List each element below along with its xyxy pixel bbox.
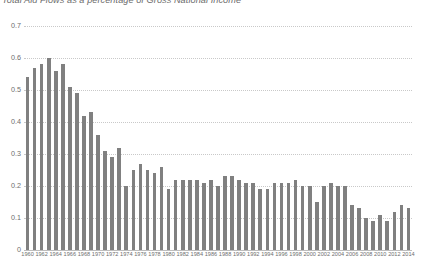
bar: [132, 170, 136, 250]
bar: [47, 58, 51, 250]
bar: [195, 180, 199, 250]
bar: [343, 186, 347, 250]
bar: [251, 183, 255, 250]
bar: [364, 218, 368, 250]
bar: [139, 164, 143, 250]
bar: [336, 186, 340, 250]
bar: [75, 93, 79, 250]
bar: [301, 186, 305, 250]
bar: [103, 151, 107, 250]
bar: [68, 87, 72, 250]
y-tick-label: 0.2: [1, 182, 21, 189]
bar: [329, 183, 333, 250]
bar: [33, 68, 37, 250]
bar-series: [24, 26, 412, 250]
bar: [357, 208, 361, 250]
x-axis: 1960196219641966196819701972197419761978…: [24, 252, 412, 264]
bar: [371, 221, 375, 250]
x-tick-label: 2014: [399, 252, 417, 258]
y-axis: 00.10.20.30.40.50.60.7: [0, 26, 21, 250]
bar: [393, 212, 397, 250]
aid-flows-bar-chart: Total Aid Flows as a percentage of Gross…: [0, 0, 421, 275]
bar: [61, 64, 65, 250]
bar: [400, 205, 404, 250]
bar: [230, 176, 234, 250]
bar: [110, 157, 114, 250]
bar: [124, 186, 128, 250]
y-tick-label: 0.1: [1, 214, 21, 221]
bar: [153, 173, 157, 250]
bar: [287, 183, 291, 250]
bar: [26, 77, 30, 250]
bar: [174, 180, 178, 250]
bar: [223, 176, 227, 250]
bar: [96, 135, 100, 250]
bar: [89, 112, 93, 250]
bar: [167, 189, 171, 250]
bar: [322, 186, 326, 250]
bar: [258, 189, 262, 250]
chart-title: Total Aid Flows as a percentage of Gross…: [2, 0, 241, 5]
bar: [117, 148, 121, 250]
bar: [407, 208, 411, 250]
bar: [209, 180, 213, 250]
y-tick-label: 0.4: [1, 118, 21, 125]
bar: [266, 189, 270, 250]
bar: [378, 215, 382, 250]
bar: [385, 221, 389, 250]
bar: [202, 183, 206, 250]
bar: [40, 64, 44, 250]
bar: [188, 180, 192, 250]
bar: [216, 186, 220, 250]
y-tick-label: 0.3: [1, 150, 21, 157]
y-tick-label: 0.5: [1, 86, 21, 93]
bar: [308, 186, 312, 250]
bar: [237, 180, 241, 250]
bar: [315, 202, 319, 250]
bar: [280, 183, 284, 250]
bar: [54, 71, 58, 250]
y-tick-label: 0.6: [1, 54, 21, 61]
bar: [294, 180, 298, 250]
bar: [244, 183, 248, 250]
bar: [181, 180, 185, 250]
bar: [350, 205, 354, 250]
bar: [146, 170, 150, 250]
bar: [160, 167, 164, 250]
bar: [273, 183, 277, 250]
y-tick-label: 0.7: [1, 22, 21, 29]
bar: [82, 116, 86, 250]
